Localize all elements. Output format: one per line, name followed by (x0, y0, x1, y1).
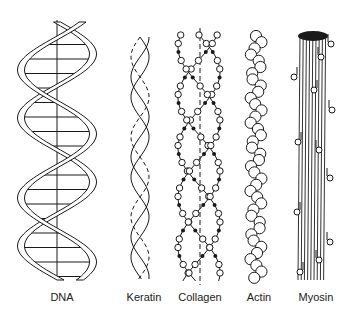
protein-structures-figure (0, 0, 350, 312)
label-collagen: Collagen (170, 291, 230, 303)
label-actin: Actin (229, 291, 289, 303)
actin-filament (245, 30, 267, 283)
label-myosin: Myosin (286, 291, 346, 303)
keratin-coiled-coil (131, 37, 149, 279)
dna-double-helix (18, 20, 97, 280)
myosin-thick-filament (291, 31, 335, 280)
label-dna: DNA (32, 291, 92, 303)
label-keratin: Keratin (114, 291, 174, 303)
collagen-triple-helix (175, 28, 223, 285)
